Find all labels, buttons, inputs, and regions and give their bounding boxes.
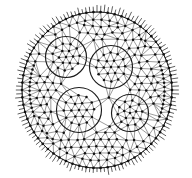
mesh-diagram-canvas	[0, 0, 192, 178]
figure-container: Triangular mesh on elliptical domain wit…	[0, 0, 192, 178]
